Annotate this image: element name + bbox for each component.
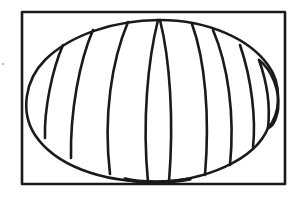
segment-line [146, 20, 158, 182]
segment-line [240, 45, 254, 147]
ellipse-bottom-accent [125, 179, 190, 182]
segment-line [71, 30, 93, 158]
segment-line [192, 24, 207, 175]
segment-line [213, 30, 232, 165]
globe-drawing [0, 0, 298, 198]
stray-mark [2, 63, 4, 65]
segment-line [160, 20, 171, 182]
globe-diagram: Line drawing of an elliptical globe-like… [0, 0, 298, 198]
segment-line [108, 22, 128, 174]
